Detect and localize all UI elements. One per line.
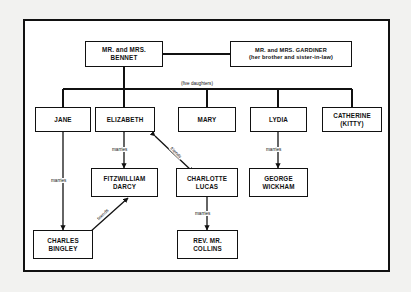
node-charlotte-label: CHARLOTTE LUCAS [185,175,229,190]
node-catherine-label: CATHERINE (KITTY) [331,112,373,127]
node-bennet-label: MR. and MRS. BENNET [100,46,148,61]
node-bingley-label: CHARLES BINGLEY [45,237,81,252]
node-jane-label: JANE [52,116,73,124]
node-lydia-label: LYDIA [267,116,290,124]
node-charlotte[interactable]: CHARLOTTE LUCAS [176,168,238,197]
node-wickham[interactable]: GEORGE WICKHAM [249,168,308,197]
node-mary-label: MARY [196,116,219,124]
node-elizabeth-label: ELIZABETH [105,116,146,124]
edge-label-five-daughters: (five daughters) [180,81,214,86]
node-collins[interactable]: REV. MR. COLLINS [177,230,238,259]
node-bennet[interactable]: MR. and MRS. BENNET [85,41,163,67]
node-lydia[interactable]: LYDIA [250,107,307,132]
node-mary[interactable]: MARY [178,107,236,132]
node-bingley[interactable]: CHARLES BINGLEY [33,230,93,259]
node-elizabeth[interactable]: ELIZABETH [95,107,155,132]
node-gardiner[interactable]: MR. and MRS. GARDINER (her brother and s… [230,41,352,67]
node-gardiner-label: MR. and MRS. GARDINER (her brother and s… [247,47,335,61]
node-wickham-label: GEORGE WICKHAM [260,175,296,190]
node-darcy-label: FITZWILLIAM DARCY [102,175,148,190]
edge-label-jane-bingley: marries [50,178,67,183]
edge-label-elizabeth-darcy: marries [111,147,128,152]
edge-label-charlotte-collins: marries [194,211,211,216]
node-darcy[interactable]: FITZWILLIAM DARCY [91,168,158,197]
node-collins-label: REV. MR. COLLINS [191,237,224,252]
edge-label-lydia-wickham: marries [265,147,282,152]
node-catherine[interactable]: CATHERINE (KITTY) [322,107,382,132]
diagram-canvas: MR. and MRS. BENNET MR. and MRS. GARDINE… [0,0,411,292]
node-jane[interactable]: JANE [35,107,91,132]
